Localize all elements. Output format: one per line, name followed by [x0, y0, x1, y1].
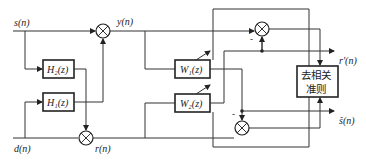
sum-r-junction	[79, 131, 93, 145]
s-to-h2-line	[25, 31, 42, 69]
w2-adapt-arrow-icon	[196, 85, 210, 94]
block-diagram: - - s(n) d(n) y(n) r(n) r′(n) ŝ(n) H₂(z)…	[0, 0, 366, 160]
h2-to-sum-r-line	[74, 69, 86, 130]
y-label: y(n)	[116, 16, 134, 28]
d-label: d(n)	[14, 143, 31, 155]
y-to-w1-line	[145, 31, 175, 69]
w2-label: W₂(z)	[180, 98, 203, 110]
w2-to-sum-rp-line	[210, 37, 262, 103]
r-label: r(n)	[95, 143, 111, 155]
minus-sign-lower: -	[232, 109, 235, 119]
sum-y-junction	[96, 24, 110, 38]
h1-to-sum-y-line	[74, 39, 103, 102]
w1-adapt-arrow-icon	[196, 51, 210, 60]
s-hat-label: ŝ(n)	[339, 115, 355, 127]
r-to-w2-line	[145, 103, 175, 138]
d-to-h1-line	[25, 102, 42, 138]
minus-sign-upper: -	[250, 34, 253, 44]
sum-rp-to-decor-line	[269, 29, 320, 65]
decorrelation-label-line1: 去相关	[301, 69, 332, 81]
decor-feedback-top-line	[213, 9, 309, 66]
s-label: s(n)	[14, 17, 30, 29]
decorrelation-label-line2: 准则	[306, 83, 326, 95]
sum-r-prime-junction	[255, 22, 269, 36]
h1-label: H₁(z)	[46, 97, 69, 109]
decor-feedback-bottom-line	[213, 97, 309, 147]
h2-label: H₂(z)	[46, 64, 69, 76]
w1-label: W₁(z)	[180, 64, 203, 76]
w1-to-sum-s-line	[210, 69, 242, 120]
sum-s-hat-junction	[235, 121, 249, 135]
r-prime-label: r′(n)	[339, 55, 357, 67]
